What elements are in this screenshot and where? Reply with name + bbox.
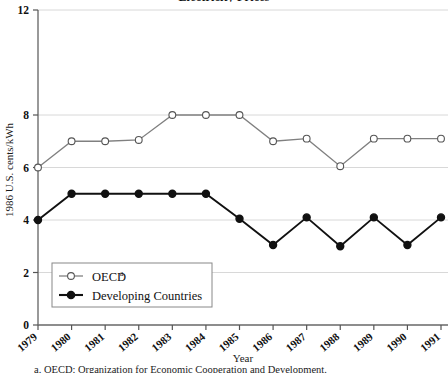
y-axis-tick-label: 6 — [23, 162, 29, 174]
y-axis-tick-label: 2 — [23, 267, 29, 279]
x-axis-tick-label: 1987 — [283, 330, 308, 354]
data-point-marker — [102, 138, 109, 145]
x-axis-ticks-group: 1979198019811982198319841985198619871988… — [15, 325, 443, 354]
data-point-marker — [68, 190, 75, 197]
legend-label: Developing Countries — [92, 289, 202, 303]
data-point-marker — [303, 214, 310, 221]
data-point-marker — [303, 135, 310, 142]
x-axis-tick-label: 1988 — [317, 330, 342, 354]
chart-legend: OECDaDeveloping Countries — [52, 263, 212, 307]
data-point-marker — [202, 190, 209, 197]
data-point-marker — [337, 243, 344, 250]
chart-container: Electricity Prices 1986 U.S. cents/kWh 0… — [0, 0, 448, 373]
x-axis-tick-label: 1983 — [149, 330, 174, 354]
chart-footnote: a. OECD: Organization for Economic Coope… — [34, 364, 448, 373]
data-point-marker — [404, 241, 411, 248]
data-point-marker — [236, 112, 243, 119]
data-point-marker — [35, 217, 42, 224]
series-line — [38, 115, 441, 168]
x-axis-tick-label: 1979 — [15, 330, 40, 354]
x-axis-tick-label: 1984 — [183, 330, 208, 354]
x-axis-tick-label: 1981 — [82, 330, 107, 353]
data-point-marker — [370, 135, 377, 142]
data-point-marker — [236, 215, 243, 222]
legend-marker-icon — [68, 273, 75, 280]
data-point-marker — [169, 112, 176, 119]
x-axis-label: Year — [38, 352, 448, 364]
legend-marker-icon — [67, 291, 74, 298]
data-point-marker — [404, 135, 411, 142]
plot-area: 0246812 19791980198119821983198419851986… — [0, 0, 448, 373]
data-point-marker — [438, 214, 445, 221]
data-point-marker — [270, 138, 277, 145]
data-point-marker — [337, 163, 344, 170]
x-axis-tick-label: 1991 — [418, 330, 443, 353]
x-axis-tick-label: 1990 — [384, 330, 409, 354]
data-point-marker — [169, 190, 176, 197]
x-axis-tick-label: 1985 — [216, 330, 241, 354]
y-axis-tick-label: 12 — [18, 4, 30, 16]
y-axis-tick-label: 8 — [23, 109, 29, 121]
series-1 — [35, 112, 445, 171]
y-axis-tick-label: 0 — [23, 319, 29, 331]
y-axis-tick-label: 4 — [23, 214, 29, 226]
data-point-marker — [135, 137, 142, 144]
x-axis-tick-label: 1986 — [250, 330, 275, 354]
data-point-marker — [370, 214, 377, 221]
x-axis-tick-label: 1989 — [351, 330, 376, 354]
data-point-marker — [102, 190, 109, 197]
data-point-marker — [35, 164, 42, 171]
x-axis-tick-label: 1980 — [48, 330, 73, 354]
data-point-marker — [68, 138, 75, 145]
x-axis-tick-label: 1982 — [115, 330, 140, 354]
data-point-marker — [135, 190, 142, 197]
data-point-marker — [203, 112, 210, 119]
data-point-marker — [438, 135, 445, 142]
data-point-marker — [270, 241, 277, 248]
data-series-group — [35, 112, 445, 250]
